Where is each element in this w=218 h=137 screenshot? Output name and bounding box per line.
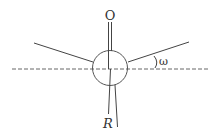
oxygen-label: O xyxy=(105,8,116,23)
front-bond-to-r xyxy=(109,69,111,114)
omega-label: ω xyxy=(159,55,168,68)
left-bond xyxy=(34,43,93,62)
rear-bond-lower xyxy=(115,85,118,127)
r-group-label: R xyxy=(102,116,113,131)
omega-angle-arc xyxy=(154,56,157,68)
newman-projection-diagram: O ω R xyxy=(0,0,218,137)
